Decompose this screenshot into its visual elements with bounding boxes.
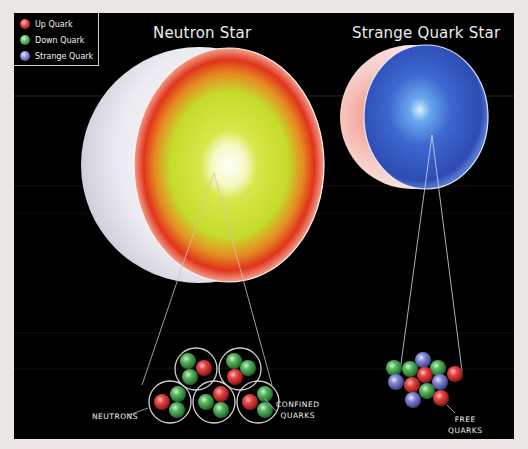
legend-label: Down Quark bbox=[35, 36, 84, 45]
free-quarks-caption: FREE QUARKS bbox=[448, 414, 482, 436]
confined-quarks-caption: CONFINED QUARKS bbox=[276, 399, 319, 421]
neutron bbox=[193, 381, 235, 423]
neutron bbox=[149, 381, 191, 423]
diagram-panel: Up Quark Down Quark Strange Quark Neutro… bbox=[14, 13, 514, 439]
free-quark-cluster bbox=[386, 352, 463, 408]
confined-caption-line2: QUARKS bbox=[276, 410, 319, 421]
up-quark-icon bbox=[20, 19, 30, 29]
free-quarks-pointer bbox=[447, 405, 455, 413]
neutron-star-title: Neutron Star bbox=[153, 24, 251, 42]
legend: Up Quark Down Quark Strange Quark bbox=[14, 13, 99, 66]
free-caption-line1: FREE bbox=[448, 414, 482, 425]
diagram-graphics bbox=[14, 13, 514, 439]
strange-quark-star-sphere bbox=[340, 45, 488, 189]
strange-quark-star-title: Strange Quark Star bbox=[352, 24, 500, 42]
free-caption-line2: QUARKS bbox=[448, 425, 482, 436]
strange-quark-icon bbox=[20, 51, 30, 61]
neutron-star-sphere bbox=[81, 47, 324, 283]
legend-item-down-quark: Down Quark bbox=[20, 33, 84, 47]
confined-caption-line1: CONFINED bbox=[276, 399, 319, 410]
legend-item-up-quark: Up Quark bbox=[20, 17, 73, 31]
legend-label: Strange Quark bbox=[35, 52, 93, 61]
legend-label: Up Quark bbox=[35, 20, 73, 29]
neutron bbox=[237, 381, 279, 423]
neutrons-caption: NEUTRONS bbox=[92, 411, 138, 422]
legend-item-strange-quark: Strange Quark bbox=[20, 49, 93, 63]
down-quark-icon bbox=[20, 35, 30, 45]
neutron-cluster bbox=[149, 348, 279, 423]
